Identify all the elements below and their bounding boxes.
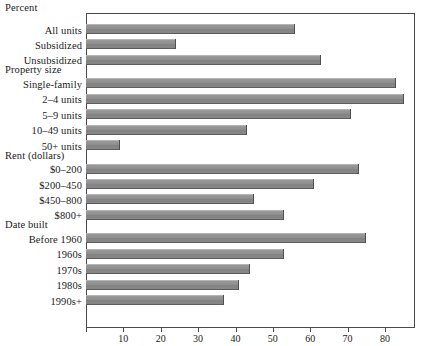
- x-axis-tick-label: 20: [146, 333, 176, 344]
- x-axis-tick-label: 30: [183, 333, 213, 344]
- bar: [86, 39, 176, 49]
- bar: [86, 109, 351, 119]
- bar: [86, 264, 250, 274]
- bar: [86, 295, 224, 305]
- bar: [86, 179, 314, 189]
- bar: [86, 210, 284, 220]
- bar: [86, 78, 396, 88]
- x-axis-tick: [161, 328, 162, 332]
- x-axis-tick: [385, 328, 386, 332]
- x-axis-tick: [198, 328, 199, 332]
- x-axis-tick: [348, 328, 349, 332]
- x-axis-tick-label: 50: [258, 333, 288, 344]
- x-axis-tick-label: 40: [221, 333, 251, 344]
- bar: [86, 280, 239, 290]
- x-axis-tick: [273, 328, 274, 332]
- x-axis-tick-label: 60: [295, 333, 325, 344]
- bar: [86, 194, 254, 204]
- bars-layer: [0, 0, 426, 346]
- bar: [86, 125, 247, 135]
- bar: [86, 140, 120, 150]
- bar: [86, 164, 359, 174]
- bar: [86, 55, 321, 65]
- bar: [86, 24, 295, 34]
- x-axis-tick: [86, 328, 87, 332]
- x-axis-tick-label: 80: [370, 333, 400, 344]
- x-axis-tick: [236, 328, 237, 332]
- bar: [86, 233, 366, 243]
- bar-chart: Percent All unitsSubsidizedUnsubsidizedP…: [0, 0, 426, 346]
- x-axis-tick: [310, 328, 311, 332]
- x-axis-tick-label: 70: [333, 333, 363, 344]
- x-axis-tick: [123, 328, 124, 332]
- bar: [86, 249, 284, 259]
- bar: [86, 94, 404, 104]
- x-axis-tick-label: 10: [108, 333, 138, 344]
